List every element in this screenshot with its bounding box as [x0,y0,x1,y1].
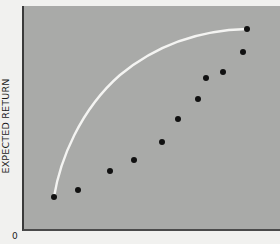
data-point [203,75,209,81]
scatter-points [51,26,250,200]
data-point [107,168,113,174]
data-point [175,116,181,122]
efficient-frontier-curve [54,29,247,197]
data-point [195,96,201,102]
data-point [131,157,137,163]
data-point [244,26,250,32]
data-point [159,139,165,145]
data-point [75,187,81,193]
data-point [51,194,57,200]
chart-svg [0,0,280,244]
origin-label: 0 [12,231,18,241]
data-point [220,69,226,75]
data-point [240,49,246,55]
y-axis-label: EXPECTED RETURN [0,66,14,186]
